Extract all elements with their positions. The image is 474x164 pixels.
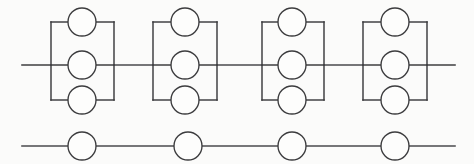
series-node-2 [174, 132, 202, 160]
group-4-node-middle [381, 51, 409, 79]
group-1-node-top [68, 8, 96, 36]
series-chain-layer [22, 132, 455, 160]
group-3-node-top [278, 8, 306, 36]
series-node-4 [381, 132, 409, 160]
series-node-3 [278, 132, 306, 160]
group-4-node-bottom [381, 86, 409, 114]
series-node-1 [68, 132, 96, 160]
circuit-diagram-canvas [0, 0, 474, 164]
group-3-node-middle [278, 51, 306, 79]
group-2 [153, 8, 217, 114]
parallel-groups-layer [51, 8, 427, 114]
group-1-node-middle [68, 51, 96, 79]
group-1-node-bottom [68, 86, 96, 114]
group-4 [363, 8, 427, 114]
group-3-node-bottom [278, 86, 306, 114]
group-1 [51, 8, 114, 114]
group-4-node-top [381, 8, 409, 36]
circuit-schematic [0, 0, 474, 164]
group-3 [262, 8, 324, 114]
group-2-node-middle [171, 51, 199, 79]
group-2-node-top [171, 8, 199, 36]
group-2-node-bottom [171, 86, 199, 114]
